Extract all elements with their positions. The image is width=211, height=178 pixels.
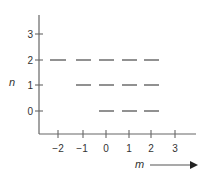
- arrow-right-icon: [190, 161, 198, 169]
- y-tick-2: 2: [27, 55, 33, 66]
- y-tick-0: 0: [27, 106, 33, 117]
- x-tick-1: 1: [126, 143, 132, 154]
- y-tick-1: 1: [27, 80, 33, 91]
- x-tick-neg2: −2: [52, 143, 64, 154]
- y-axis-label: n: [9, 76, 15, 88]
- x-axis-label: m: [135, 158, 144, 170]
- level-diagram: 3 2 1 0 n −2 −1 0 1 2 3 m: [0, 0, 211, 178]
- x-tick-3: 3: [172, 143, 178, 154]
- x-tick-neg1: −1: [76, 143, 88, 154]
- y-tick-labels: 3 2 1 0: [27, 29, 33, 117]
- x-tick-2: 2: [148, 143, 154, 154]
- x-tick-0: 0: [103, 143, 109, 154]
- x-tick-labels: −2 −1 0 1 2 3: [52, 143, 178, 154]
- y-tick-3: 3: [27, 29, 33, 40]
